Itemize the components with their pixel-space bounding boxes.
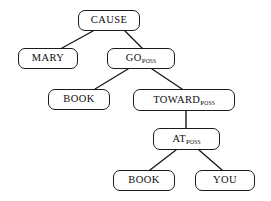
tree-edge-cause-mary bbox=[62, 31, 93, 48]
tree-edge-at-you bbox=[199, 150, 222, 170]
node-subscript-go-poss: POSS bbox=[142, 58, 157, 65]
tree-edge-go-book bbox=[95, 69, 128, 89]
node-text-at-poss: AT bbox=[172, 133, 186, 144]
node-subscript-at-poss: POSS bbox=[186, 139, 201, 146]
tree-node-label-you: YOU bbox=[213, 175, 237, 186]
tree-edge-at-book bbox=[150, 150, 176, 170]
tree-edge-go-toward bbox=[152, 69, 182, 89]
tree-node-you[interactable]: YOU bbox=[195, 170, 255, 191]
tree-node-mary[interactable]: MARY bbox=[18, 48, 78, 69]
node-text-go-poss: GO bbox=[126, 52, 142, 63]
node-text-book-mid: BOOK bbox=[63, 93, 94, 104]
tree-node-label-mary: MARY bbox=[32, 53, 65, 64]
tree-node-label-at-poss: ATPOSS bbox=[172, 134, 200, 145]
node-text-you: YOU bbox=[213, 174, 237, 185]
node-text-mary: MARY bbox=[32, 52, 65, 63]
tree-node-label-cause: CAUSE bbox=[91, 15, 127, 26]
tree-node-label-book-mid: BOOK bbox=[63, 94, 94, 105]
tree-edge-cause-go bbox=[125, 31, 142, 48]
node-text-cause: CAUSE bbox=[91, 14, 127, 25]
tree-node-at-poss[interactable]: ATPOSS bbox=[153, 128, 220, 150]
tree-node-go-poss[interactable]: GOPOSS bbox=[107, 48, 175, 69]
tree-node-label-book-bottom: BOOK bbox=[128, 175, 159, 186]
tree-diagram: CAUSEMARYGOPOSSBOOKTOWARDPOSSATPOSSBOOKY… bbox=[0, 0, 271, 201]
tree-node-book-mid[interactable]: BOOK bbox=[48, 89, 110, 110]
tree-node-book-bottom[interactable]: BOOK bbox=[113, 170, 175, 191]
node-text-toward-poss: TOWARD bbox=[153, 94, 200, 105]
tree-node-label-go-poss: GOPOSS bbox=[126, 53, 157, 64]
tree-node-label-toward-poss: TOWARDPOSS bbox=[153, 95, 215, 106]
tree-node-toward-poss[interactable]: TOWARDPOSS bbox=[133, 89, 235, 111]
node-subscript-toward-poss: POSS bbox=[200, 100, 215, 107]
node-text-book-bottom: BOOK bbox=[128, 174, 159, 185]
tree-node-cause[interactable]: CAUSE bbox=[78, 10, 140, 31]
